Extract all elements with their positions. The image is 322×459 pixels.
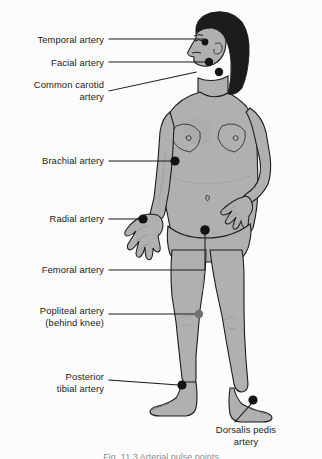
label-dorsalis-pedis-artery: Dorsalis pedis artery [196,424,296,447]
label-temporal-artery: Temporal artery [8,34,104,46]
pulse-dot-facial [205,58,213,66]
pulse-dot-common-carotid [215,68,223,76]
ear [214,43,222,54]
label-posterior-tibial-artery: Posterior tibial artery [8,371,104,394]
pulse-dot-brachial [170,156,179,165]
figure-caption: Fig. 11.3 Arterial pulse points [0,452,322,459]
label-femoral-artery: Femoral artery [8,264,104,276]
leg-right [210,250,248,392]
pulse-dot-popliteal [195,310,203,318]
pulse-dot-temporal [202,39,209,46]
label-popliteal-artery: Popliteal artery (behind knee) [8,305,104,328]
leader-common-carotid [109,72,196,91]
leader-posterior-tibial [109,380,178,385]
pulse-dot-femoral [200,225,210,235]
foot-left [150,382,197,416]
label-radial-artery: Radial artery [8,213,104,225]
label-common-carotid-artery: Common carotid artery [8,79,104,102]
pulse-dot-posterior-tibial [177,380,186,389]
pulse-dot-dorsalis-pedis [248,395,257,404]
pulse-dot-radial [138,214,147,223]
label-brachial-artery: Brachial artery [8,155,104,167]
artery-pulse-point-diagram: Temporal artery Facial artery Common car… [0,0,322,459]
label-facial-artery: Facial artery [8,57,104,69]
